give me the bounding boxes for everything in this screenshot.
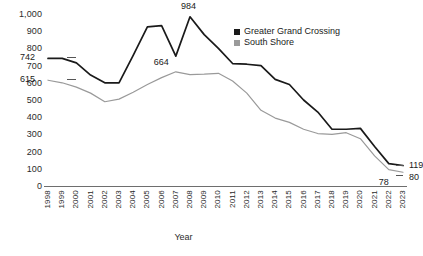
x-axis-tick: 2015 xyxy=(285,190,293,209)
data-point-label: 78 xyxy=(379,178,389,187)
y-axis-tick: 0 xyxy=(0,182,42,191)
data-point-label: 984 xyxy=(181,2,196,11)
plot-area xyxy=(48,14,403,186)
x-axis-tick: 2006 xyxy=(158,190,166,209)
x-axis-tick: 2005 xyxy=(143,190,151,209)
legend-label: South Shore xyxy=(244,37,294,48)
x-axis-tick: 1999 xyxy=(58,190,66,209)
y-axis-tick: 700 xyxy=(0,61,42,70)
x-axis-tick: 2020 xyxy=(356,190,364,209)
x-axis-tick: 2008 xyxy=(186,190,194,209)
x-axis-labels: 1998199920002001200220032004200520062007… xyxy=(48,190,403,234)
data-point-label: 664 xyxy=(154,58,169,67)
x-axis-tick: 2014 xyxy=(271,190,279,209)
y-axis-labels: 1,0009008007006005004003002001000 xyxy=(0,14,42,186)
x-axis-tick: 2004 xyxy=(129,190,137,209)
data-point-label: 742 xyxy=(20,53,35,62)
x-axis-tick: 2011 xyxy=(229,190,237,208)
series-line xyxy=(48,17,403,166)
x-axis-tick: 2001 xyxy=(87,190,95,209)
data-point-label: 615 xyxy=(20,75,35,84)
y-axis-tick: 200 xyxy=(0,147,42,156)
x-axis-line xyxy=(44,186,407,187)
y-axis-tick: 400 xyxy=(0,113,42,122)
y-axis-tick: 300 xyxy=(0,130,42,139)
chart-legend: Greater Grand Crossing South Shore xyxy=(234,26,340,48)
x-axis-tick: 2022 xyxy=(385,190,393,209)
data-point-label: 80 xyxy=(409,173,419,182)
legend-item-greater-grand-crossing[interactable]: Greater Grand Crossing xyxy=(234,26,340,37)
y-axis-tick: 500 xyxy=(0,96,42,105)
legend-swatch-icon xyxy=(234,29,240,35)
legend-item-south-shore[interactable]: South Shore xyxy=(234,37,340,48)
x-axis-title: Year xyxy=(0,232,415,242)
x-axis-tick: 2023 xyxy=(399,190,407,209)
y-axis-tick: 100 xyxy=(0,164,42,173)
x-axis-tick: 2003 xyxy=(115,190,123,209)
series-lines xyxy=(48,14,403,186)
y-axis-tick: 900 xyxy=(0,27,42,36)
data-point-label: 119 xyxy=(409,161,423,170)
x-axis-tick: 2016 xyxy=(300,190,308,209)
label-leader-line xyxy=(396,165,403,166)
label-leader-line xyxy=(396,175,403,176)
series-line xyxy=(48,72,403,172)
label-leader-line xyxy=(67,57,76,58)
x-axis-tick: 2017 xyxy=(314,190,322,209)
x-axis-tick: 2013 xyxy=(257,190,265,209)
label-leader-line xyxy=(67,79,76,80)
x-axis-tick: 2002 xyxy=(101,190,109,209)
x-axis-tick: 1998 xyxy=(44,190,52,209)
legend-swatch-icon xyxy=(234,40,240,46)
y-axis-tick: 1,000 xyxy=(0,10,42,19)
x-axis-tick: 2012 xyxy=(243,190,251,209)
x-axis-tick: 2021 xyxy=(371,190,379,209)
x-axis-tick: 2000 xyxy=(72,190,80,209)
legend-label: Greater Grand Crossing xyxy=(244,26,340,37)
x-axis-tick: 2018 xyxy=(328,190,336,209)
x-axis-tick: 2007 xyxy=(172,190,180,209)
x-axis-tick: 2019 xyxy=(342,190,350,209)
x-axis-tick: 2009 xyxy=(200,190,208,209)
x-axis-tick: 2010 xyxy=(214,190,222,209)
